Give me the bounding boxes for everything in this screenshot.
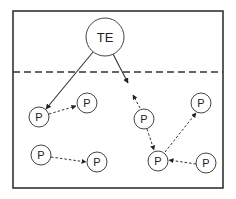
node-label: P	[83, 97, 90, 109]
node-p7: P	[148, 151, 168, 171]
node-label: P	[35, 111, 42, 123]
arrow-p5-to-open	[133, 95, 140, 108]
node-p3: P	[31, 145, 51, 165]
node-te: TE	[86, 18, 124, 56]
node-label: TE	[97, 30, 114, 45]
node-p6: P	[191, 93, 211, 113]
node-label: P	[140, 113, 147, 125]
arrow-p1-to-p2	[49, 106, 76, 114]
arrow-te-to-open	[113, 54, 128, 83]
node-p2: P	[77, 93, 97, 113]
arrow-p5-to-p7	[147, 129, 154, 150]
node-p1: P	[29, 107, 49, 127]
node-p5: P	[134, 109, 154, 129]
arrow-p8-to-p7	[169, 160, 196, 164]
edges-group	[46, 52, 196, 164]
arrow-p3-to-p4	[51, 157, 86, 162]
node-label: P	[202, 157, 209, 169]
node-label: P	[197, 97, 204, 109]
node-label: P	[154, 155, 161, 167]
diagram-canvas: TEPPPPPPPP	[0, 0, 236, 199]
node-label: P	[37, 149, 44, 161]
arrow-p7-to-p6	[165, 113, 196, 152]
node-label: P	[93, 156, 100, 168]
node-p8: P	[196, 153, 216, 173]
node-p4: P	[87, 152, 107, 172]
